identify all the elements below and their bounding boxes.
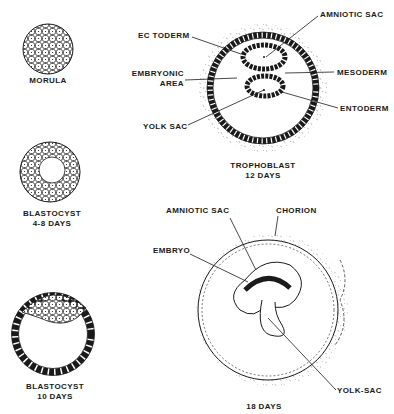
day12-label-entoderm: ENTODERM [340,104,389,113]
blastocyst-early-caption-1: BLASTOCYST [23,209,81,218]
day18-label-amniotic-sac: AMNIOTIC SAC [166,206,229,215]
blastocyst-early-illustration [20,142,80,202]
blastocyst-early-caption-2: 4-8 DAYS [33,219,72,228]
blastocyst-late-illustration [12,293,95,376]
day12-label-embryonic-area-2: AREA [160,79,184,88]
embryo-development-diagram: MORULA BLASTOCYST 4-8 DAYS BLASTOCYST 10… [0,0,394,414]
blastocyst-late-caption-1: BLASTOCYST [26,382,84,391]
morula-illustration [23,24,73,74]
morula-caption: MORULA [29,76,67,85]
day18-caption: 18 DAYS [246,402,282,411]
day12-caption-1: TROPHOBLAST [230,161,295,170]
day18-label-yolk-sac: YOLK-SAC [337,386,382,395]
day18-label-chorion: CHORION [276,206,317,215]
day18-illustration [196,234,348,386]
day12-label-ectoderm: EC TODERM [138,31,189,40]
day18-label-embryo: EMBRYO [153,246,190,255]
day12-label-embryonic-area-1: EMBRYONIC [132,69,184,78]
day12-label-yolk-sac: YOLK SAC [143,122,188,131]
day12-label-amniotic-sac: AMNIOTIC SAC [320,10,383,19]
day12-illustration [199,24,327,152]
blastocyst-late-caption-2: 10 DAYS [37,392,73,401]
day12-label-mesoderm: MESODERM [337,68,387,77]
day12-caption-2: 12 DAYS [245,171,281,180]
